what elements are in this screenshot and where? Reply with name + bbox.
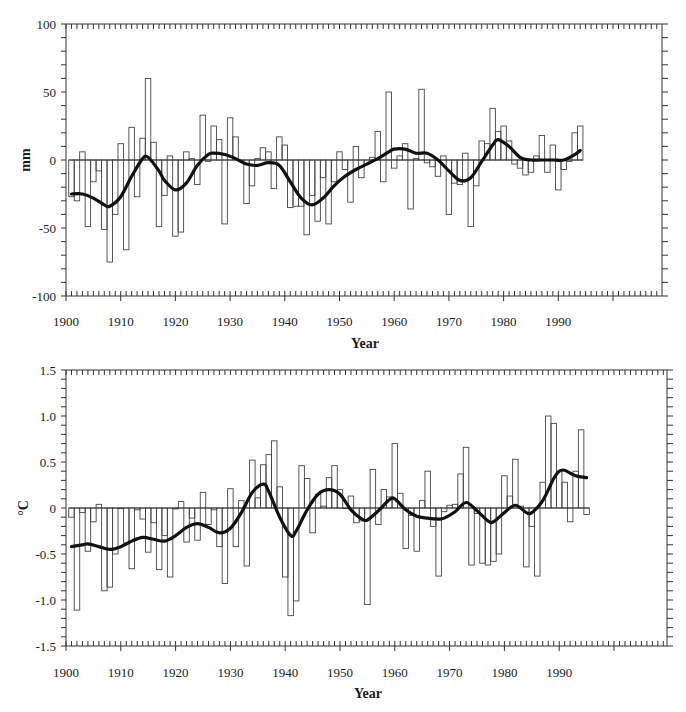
x-tick-label: 1920 — [162, 314, 188, 329]
temperature-chart: -1.5-1.0-0.500.51.01.5190019101920193019… — [0, 355, 686, 712]
bar-1989 — [551, 423, 556, 508]
bar-1950 — [337, 152, 342, 160]
bar-1905 — [91, 508, 96, 522]
bar-1961 — [397, 156, 402, 160]
bar-1928 — [216, 140, 221, 160]
bar-1991 — [562, 482, 567, 508]
bar-1986 — [535, 508, 540, 576]
bar-1903 — [80, 508, 85, 513]
temperature-plot: -1.5-1.0-0.500.51.01.5190019101920193019… — [16, 363, 673, 702]
bar-1953 — [353, 146, 358, 160]
y-tick-label: 0 — [50, 501, 57, 516]
bar-1990 — [556, 160, 561, 190]
x-tick-label: 1930 — [217, 314, 243, 329]
bar-1922 — [184, 152, 189, 160]
bar-1973 — [463, 153, 468, 160]
bar-1927 — [211, 126, 216, 160]
bar-1921 — [178, 160, 183, 232]
bar-1911 — [124, 508, 129, 543]
y-tick-label: 1.0 — [40, 409, 56, 424]
bar-1990 — [556, 471, 561, 508]
smoothed-trend-line — [71, 470, 586, 550]
bar-1984 — [524, 508, 529, 567]
bar-1969 — [441, 508, 446, 512]
bar-1949 — [332, 466, 337, 508]
bar-1979 — [495, 131, 500, 160]
bar-1915 — [145, 508, 150, 552]
bar-1908 — [107, 508, 112, 587]
bar-1965 — [419, 501, 424, 508]
bar-1925 — [200, 115, 205, 160]
bar-1921 — [178, 502, 183, 508]
x-axis-title: Year — [354, 686, 382, 701]
bar-1906 — [96, 160, 101, 171]
x-tick-label: 1940 — [272, 314, 298, 329]
bar-1919 — [167, 156, 172, 160]
bar-1944 — [304, 160, 309, 235]
y-axis-title: mm — [18, 148, 33, 172]
x-tick-label: 1950 — [327, 665, 353, 680]
x-tick-label: 1990 — [545, 314, 571, 329]
bar-1969 — [441, 156, 446, 160]
bar-1988 — [545, 160, 550, 172]
bar-1992 — [567, 508, 572, 522]
bar-1910 — [118, 144, 123, 160]
y-tick-label: -0.5 — [35, 547, 56, 562]
x-tick-label: 1900 — [53, 314, 79, 329]
y-tick-label: 0.5 — [40, 455, 56, 470]
bar-1906 — [96, 504, 101, 508]
temperature-bars — [69, 416, 590, 616]
bar-1925 — [200, 492, 205, 508]
bar-1905 — [91, 160, 96, 182]
y-tick-label: -100 — [32, 289, 56, 304]
bar-1937 — [266, 152, 271, 160]
bar-1909 — [112, 160, 117, 214]
bar-1901 — [69, 160, 74, 197]
bar-1960 — [391, 160, 396, 168]
bar-1914 — [140, 508, 145, 519]
bar-1928 — [217, 508, 222, 547]
bar-1916 — [151, 142, 156, 160]
x-tick-label: 1980 — [491, 665, 517, 680]
x-axis-title: Year — [351, 336, 379, 351]
bar-1908 — [107, 160, 112, 262]
bar-1942 — [293, 160, 298, 206]
precipitation-chart: -100-50050100190019101920193019401950196… — [0, 0, 686, 355]
bar-1995 — [584, 508, 589, 514]
bar-1945 — [310, 508, 315, 533]
bar-1958 — [381, 160, 386, 182]
bar-1982 — [513, 459, 518, 508]
bar-1937 — [266, 455, 271, 508]
x-tick-label: 1980 — [491, 314, 517, 329]
bar-1994 — [578, 430, 583, 508]
x-tick-label: 1910 — [108, 665, 134, 680]
bar-1962 — [402, 144, 407, 160]
bar-1930 — [228, 489, 233, 508]
x-tick-label: 1960 — [381, 314, 407, 329]
bar-1956 — [370, 469, 375, 508]
bar-1926 — [206, 508, 211, 525]
bar-1973 — [463, 447, 468, 508]
x-tick-label: 1930 — [217, 665, 243, 680]
bar-1994 — [577, 126, 582, 160]
bar-1952 — [348, 160, 353, 202]
x-tick-label: 1990 — [546, 665, 572, 680]
bar-1955 — [365, 508, 370, 605]
bar-1965 — [419, 89, 424, 160]
y-tick-label: 0 — [50, 153, 57, 168]
bar-1967 — [430, 160, 435, 167]
bar-1983 — [517, 160, 522, 168]
bar-1912 — [129, 127, 134, 160]
bar-1945 — [309, 160, 314, 195]
bar-1911 — [123, 160, 128, 250]
bar-1984 — [523, 160, 528, 175]
bar-1948 — [326, 478, 331, 508]
bar-1982 — [512, 160, 517, 164]
bar-1940 — [282, 508, 287, 577]
y-tick-label: -1.0 — [35, 593, 56, 608]
bar-1946 — [315, 160, 320, 221]
y-axis-title: °C — [16, 500, 31, 516]
bar-1951 — [342, 160, 347, 170]
bar-1944 — [304, 479, 309, 508]
precipitation-plot: -100-50050100190019101920193019401950196… — [18, 17, 668, 352]
